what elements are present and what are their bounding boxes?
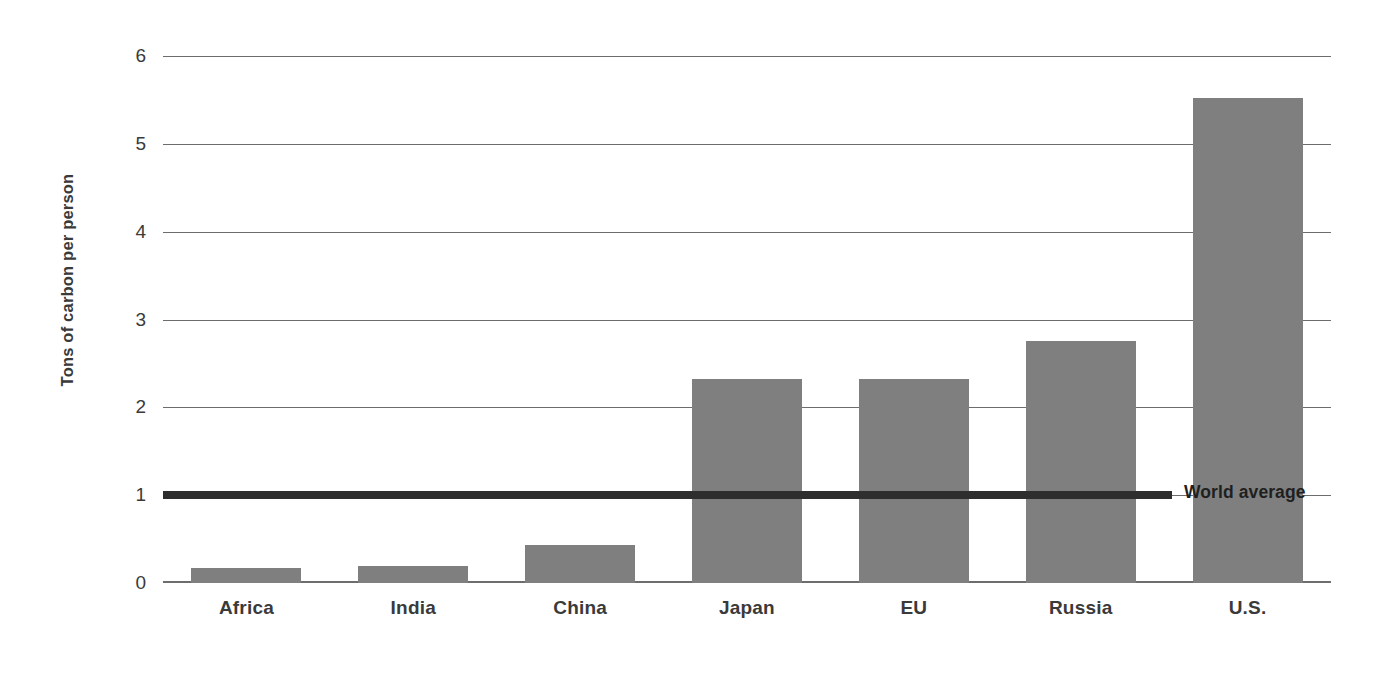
y-axis-tick-label: 5	[106, 133, 146, 155]
plot-area: World average	[163, 56, 1331, 583]
y-axis-tick-label: 0	[106, 572, 146, 594]
x-axis-tick-label: Japan	[664, 597, 831, 619]
bar	[1193, 98, 1303, 583]
x-axis-tick-label: India	[330, 597, 497, 619]
bar	[692, 379, 802, 583]
x-axis-tick-label: Africa	[163, 597, 330, 619]
world-average-label: World average	[1184, 482, 1306, 503]
world-average-line	[163, 491, 1172, 499]
bar	[1026, 341, 1136, 583]
x-axis-tick-label: Russia	[997, 597, 1164, 619]
bar	[358, 566, 468, 583]
y-axis-tick-label: 3	[106, 309, 146, 331]
bar-chart: Tons of carbon per person 0123456 World …	[0, 0, 1373, 676]
bar	[525, 545, 635, 583]
y-axis-tick-label: 1	[106, 484, 146, 506]
bar	[191, 568, 301, 583]
y-axis-title: Tons of carbon per person	[56, 0, 78, 560]
y-axis-tick-label: 2	[106, 396, 146, 418]
x-axis-tick-labels: AfricaIndiaChinaJapanEURussiaU.S.	[163, 597, 1331, 637]
bar	[859, 379, 969, 583]
bars	[163, 56, 1331, 583]
x-axis-tick-label: EU	[830, 597, 997, 619]
y-axis-tick-labels: 0123456	[96, 56, 146, 583]
y-axis-tick-label: 4	[106, 221, 146, 243]
x-axis-tick-label: U.S.	[1164, 597, 1331, 619]
y-axis-tick-label: 6	[106, 45, 146, 67]
x-axis-tick-label: China	[497, 597, 664, 619]
